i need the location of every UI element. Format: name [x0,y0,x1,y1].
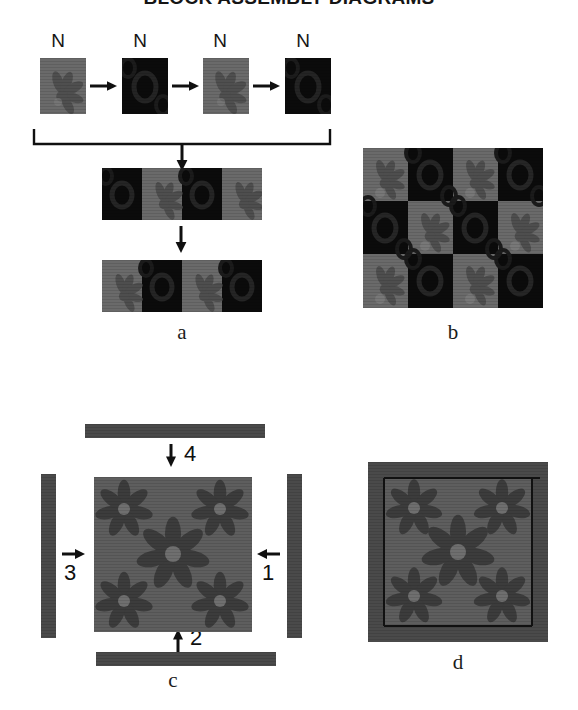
source-tile-4 [285,58,331,114]
assembly-step-label-1: 1 [262,560,274,586]
panel-c-border-top [85,424,265,438]
source-tile-2 [122,58,168,114]
panel-caption-b: b [413,320,493,345]
flow-arrow-2-icon [172,79,200,93]
flow-arrow-down-icon [172,226,190,254]
tile-label-n-4: N [283,30,323,52]
source-tile-3 [203,58,249,114]
panel-caption-c: c [133,668,213,693]
flow-arrow-1-icon [90,79,118,93]
assembly-arrow-4-icon [163,444,179,468]
flow-arrow-3-icon [253,79,281,93]
assembled-strip-1 [102,168,262,220]
page-title: BLOCK ASSEMBLY DIAGRAMS [0,0,578,9]
panel-b-checkerboard [363,148,543,308]
assembly-step-label-4: 4 [184,441,196,467]
panel-c-border-right [287,474,302,638]
tile-label-n-2: N [120,30,160,52]
panel-c-border-left [41,474,56,638]
assembly-bracket-icon [32,126,332,172]
tile-label-n-3: N [200,30,240,52]
assembled-strip-2 [102,260,262,312]
panel-caption-a: a [142,320,222,345]
diagram-canvas: BLOCK ASSEMBLY DIAGRAMS [0,0,578,710]
panel-caption-d: d [418,650,498,675]
source-tile-1 [40,58,86,114]
panel-c-center-square [94,477,252,632]
panel-d-assembled-block [368,462,548,642]
panel-c-border-bottom [96,652,276,666]
assembly-step-label-3: 3 [64,560,76,586]
tile-label-n-1: N [38,30,78,52]
